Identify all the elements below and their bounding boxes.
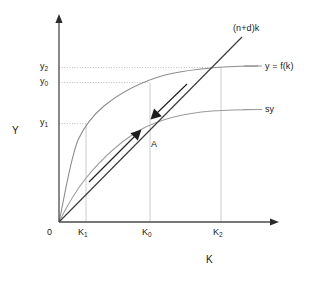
solow-growth-diagram: Y K 0 y2 y0 y1 K1 K0 K2 (n+d)k y = f(k) … [0,0,310,281]
axes [55,14,279,226]
y-tick-label-y0: y0 [40,77,48,86]
x-tick-label-k2: K2 [213,228,223,237]
y-tick-label-y1: y1 [40,118,48,127]
x-tick-k0-sub: 0 [148,231,152,238]
y-tick-y0-base: y [40,76,45,86]
x-axis-arrowhead [270,218,279,225]
arrow-from-above-shaft [156,84,187,114]
x-tick-label-k0: K0 [142,228,152,237]
y-axis-arrowhead [55,14,62,23]
y-tick-y0-sub: 0 [45,80,49,87]
curve-label-saving-function: sy [265,105,274,114]
x-tick-label-k1: K1 [78,228,88,237]
x-tick-k1-sub: 1 [84,231,88,238]
curve-label-break-even-investment: (n+d)k [233,24,259,33]
y-tick-label-y2: y2 [40,62,48,71]
y-guide-lines [59,68,221,124]
y-tick-y1-sub: 1 [45,121,49,128]
point-label-steady-state: A [151,140,157,149]
label-leader-lines [243,66,262,110]
y-axis-title: Y [12,126,19,136]
y-tick-y2-sub: 2 [45,65,49,72]
origin-label: 0 [47,228,52,237]
arrow-from-below-shaft [89,135,136,182]
x-axis-title: K [206,255,213,265]
curve-saving-function [59,109,258,222]
curve-production-function [59,66,258,222]
curve-label-production-function: y = f(k) [265,62,294,71]
y-tick-y1-base: y [40,117,45,127]
x-tick-k2-sub: 2 [219,231,223,238]
y-tick-y2-base: y [40,61,45,71]
convergence-arrows [89,84,187,182]
